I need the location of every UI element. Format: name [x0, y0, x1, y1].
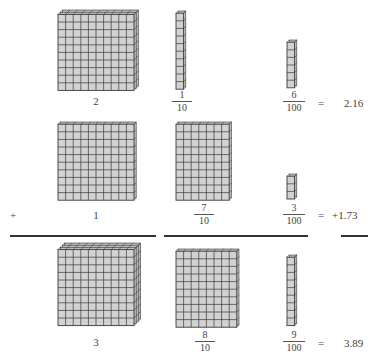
hundredths-denominator-row3: 100 — [283, 342, 305, 353]
result-row2: +1.73 — [332, 210, 357, 221]
hundredths-denominator-row2: 100 — [283, 215, 305, 226]
result-row1: 2.16 — [344, 98, 363, 109]
hundredths-cubes-block-row3 — [287, 255, 303, 327]
plus-operator: + — [10, 210, 16, 221]
hundredths-numerator-row2: 3 — [283, 203, 305, 215]
sum-rule-result — [341, 235, 368, 237]
tenths-numerator-row2: 7 — [194, 203, 214, 215]
tenths-fraction-row3: 8 10 — [195, 330, 215, 353]
tenths-denominator-row3: 10 — [195, 342, 215, 353]
hundredths-fraction-row2: 3 100 — [283, 203, 305, 226]
ones-label-row2: 1 — [90, 210, 102, 221]
hundredths-denominator-row1: 100 — [283, 102, 305, 113]
ones-flats-block-row2 — [58, 122, 144, 204]
sum-rule-middle — [164, 235, 308, 237]
hundredths-cubes-block-row1 — [287, 40, 303, 91]
ones-flats-block-row3 — [58, 243, 144, 327]
hundredths-fraction-row1: 6 100 — [283, 90, 305, 113]
hundredths-numerator-row3: 9 — [283, 330, 305, 342]
ones-flats-block-row1 — [58, 10, 144, 92]
tenths-fraction-row1: 1 10 — [172, 90, 192, 113]
equals-sign-row1: = — [318, 98, 324, 109]
tenths-rods-block-row1 — [176, 11, 192, 91]
sum-rule-left — [10, 235, 156, 237]
tenths-rods-block-row2 — [176, 122, 236, 204]
tenths-denominator-row1: 10 — [172, 102, 192, 113]
ones-label-row3: 3 — [90, 337, 102, 348]
tenths-fraction-row2: 7 10 — [194, 203, 214, 226]
tenths-numerator-row3: 8 — [195, 330, 215, 342]
tenths-denominator-row2: 10 — [194, 215, 214, 226]
hundredths-numerator-row1: 6 — [283, 90, 305, 102]
ones-label-row1: 2 — [90, 96, 102, 107]
equals-sign-row3: = — [318, 338, 324, 349]
result-row3: 3.89 — [344, 338, 363, 349]
hundredths-fraction-row3: 9 100 — [283, 330, 305, 353]
hundredths-cubes-block-row2 — [287, 174, 303, 203]
tenths-numerator-row1: 1 — [172, 90, 192, 102]
equals-sign-row2: = — [318, 210, 324, 221]
tenths-rods-block-row3 — [176, 249, 240, 327]
